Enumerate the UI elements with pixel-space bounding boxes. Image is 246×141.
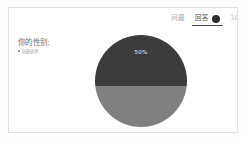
answer-subline-label: 创建表单 <box>22 48 38 54</box>
response-summary-panel: 你的性别: 创建表单 50% <box>9 29 238 133</box>
tab-responses-label: 回答 <box>195 15 209 22</box>
answer-subline: 创建表单 <box>18 48 38 54</box>
gender-pie-chart: 50% <box>95 35 187 133</box>
tab-questions[interactable]: 问题 <box>166 8 190 29</box>
tab-overflow-label: 30 <box>230 15 238 22</box>
tab-bar: 问题 回答 30 <box>9 8 238 29</box>
tab-overflow[interactable]: 30 <box>225 8 238 29</box>
app-screen: 问题 回答 30 你的性别: 创建表单 50% <box>0 0 246 141</box>
tab-responses[interactable]: 回答 <box>190 8 225 29</box>
pie-slice-2[interactable] <box>95 86 187 127</box>
form-response-card: 问题 回答 30 你的性别: 创建表单 50% <box>8 7 238 133</box>
pie-graphic: 50% <box>95 35 187 127</box>
active-tab-indicator <box>192 25 223 27</box>
pie-slice-1-label: 50% <box>95 49 187 55</box>
bullet-icon <box>18 50 20 52</box>
pie-slice-1[interactable] <box>95 35 187 86</box>
tab-questions-label: 问题 <box>171 15 185 22</box>
response-count-badge-icon <box>212 15 220 23</box>
question-title: 你的性别: <box>18 36 50 47</box>
